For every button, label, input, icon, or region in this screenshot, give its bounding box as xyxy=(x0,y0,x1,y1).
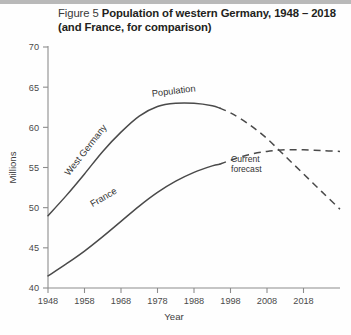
y-tick-label: 55 xyxy=(29,163,39,173)
y-tick-label: 60 xyxy=(29,123,39,133)
x-tick-label: 1978 xyxy=(147,296,167,306)
x-tick-label: 1958 xyxy=(74,296,94,306)
x-tick-label: 2008 xyxy=(257,296,277,306)
y-tick-label: 65 xyxy=(29,83,39,93)
x-tick-label: 1988 xyxy=(184,296,204,306)
x-axis-title: Year xyxy=(164,311,184,322)
x-tick-label: 1948 xyxy=(38,296,58,306)
x-tick-label: 2018 xyxy=(293,296,313,306)
annotation-current-forecast-line1: Current xyxy=(231,154,260,164)
y-tick-label: 40 xyxy=(29,283,39,293)
figure-container: Figure 5 Population of western Germany, … xyxy=(0,0,351,335)
x-tick-label: 1998 xyxy=(220,296,240,306)
y-axis-ticks: 40455055606570 xyxy=(29,42,48,293)
france-actual-line xyxy=(48,164,220,276)
y-tick-label: 45 xyxy=(29,243,39,253)
series-label-france: France xyxy=(88,186,118,209)
x-axis-ticks: 19481958196819781988199820082018 xyxy=(38,288,314,306)
y-axis-title: Millions xyxy=(7,151,18,183)
annotation-population: Population xyxy=(151,83,196,98)
line-chart: 40455055606570 1948195819681978198819982… xyxy=(0,0,351,335)
x-tick-label: 1968 xyxy=(111,296,131,306)
series-label-west-germany: West Germany xyxy=(63,122,109,177)
y-tick-label: 70 xyxy=(29,42,39,52)
annotation-current-forecast-line2: forecast xyxy=(231,164,262,174)
y-tick-label: 50 xyxy=(29,203,39,213)
